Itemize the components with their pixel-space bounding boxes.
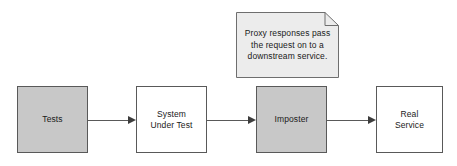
node-tests-label: Tests (42, 114, 62, 125)
connector-tests-to-system-under-test (88, 120, 128, 121)
node-system-under-test-label: System Under Test (151, 109, 193, 131)
node-real-service-label: Real Service (395, 109, 424, 131)
annotation-note: Proxy responses pass the request on to a… (236, 12, 339, 78)
node-real-service: Real Service (376, 86, 443, 153)
arrowhead-icon-tests-to-system-under-test (128, 116, 136, 124)
node-imposter-label: Imposter (275, 114, 309, 125)
connector-imposter-to-real-service (327, 120, 368, 121)
connector-system-under-test-to-imposter (207, 120, 248, 121)
annotation-note-text: Proxy responses pass the request on to a… (236, 28, 339, 63)
node-imposter: Imposter (256, 86, 327, 153)
node-tests: Tests (17, 86, 88, 153)
arrowhead-icon-system-under-test-to-imposter (248, 116, 256, 124)
arrowhead-icon-imposter-to-real-service (368, 116, 376, 124)
node-system-under-test: System Under Test (136, 86, 207, 153)
diagram-canvas: Tests System Under Test Imposter Real Se… (0, 0, 457, 166)
